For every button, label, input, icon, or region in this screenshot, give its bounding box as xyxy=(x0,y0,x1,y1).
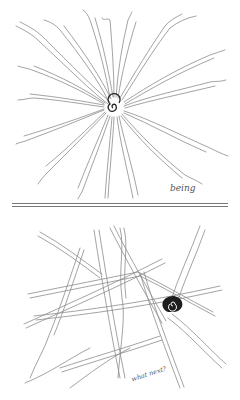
bottom-panel-tangled-lines xyxy=(0,208,240,400)
caption-being: being xyxy=(170,184,196,192)
dark-spiral-icon xyxy=(162,296,182,312)
divider-line-upper xyxy=(12,203,228,204)
radiating-lines-drawing xyxy=(0,0,240,202)
divider-line-lower xyxy=(12,206,228,207)
tangled-lines-drawing xyxy=(0,208,240,400)
top-panel-radiating-lines: being xyxy=(0,0,240,202)
